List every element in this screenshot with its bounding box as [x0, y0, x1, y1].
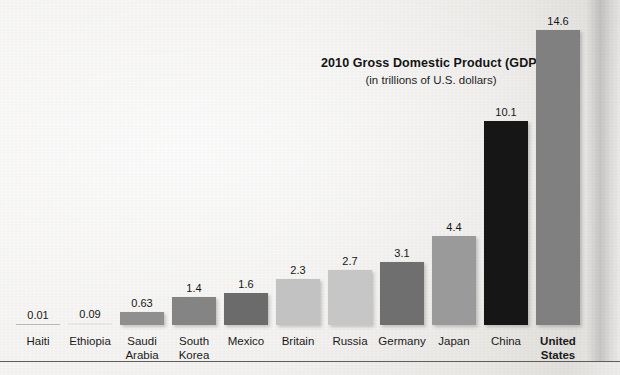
bar-category-label: Mexico: [228, 335, 264, 349]
bar-group[interactable]: 4.4Japan: [432, 236, 476, 325]
bar-value-label: 4.4: [446, 221, 461, 233]
bar-rect[interactable]: [276, 279, 320, 325]
bar-group[interactable]: 3.1Germany: [380, 262, 424, 325]
bar-group[interactable]: 0.09Ethiopia: [68, 323, 112, 325]
bar-group[interactable]: 1.4South Korea: [172, 297, 216, 325]
bar-rect[interactable]: [380, 262, 424, 325]
bar-rect[interactable]: [16, 324, 60, 325]
bar-rect[interactable]: [432, 236, 476, 325]
bar-group[interactable]: 1.6Mexico: [224, 293, 268, 325]
bar-chart-plot-area: 0.01Haiti0.09Ethiopia0.63Saudi Arabia1.4…: [0, 0, 620, 375]
bottom-rule: [0, 361, 620, 362]
bar-value-label: 0.09: [79, 308, 100, 320]
bar-category-label: China: [491, 335, 521, 349]
bar-rect[interactable]: [328, 270, 372, 325]
bar-value-label: 0.01: [27, 309, 48, 321]
bar-category-label: Saudi Arabia: [125, 335, 158, 362]
bar-category-label: Haiti: [26, 335, 49, 349]
bar-group[interactable]: 2.7Russia: [328, 270, 372, 325]
bar-category-label: Japan: [438, 335, 469, 349]
bar-rect[interactable]: [484, 121, 528, 325]
bar-value-label: 2.7: [342, 255, 357, 267]
gdp-chart-page: 2010 Gross Domestic Product (GDP) (in tr…: [0, 0, 620, 375]
bar-value-label: 14.6: [547, 15, 568, 27]
bar-rect[interactable]: [68, 323, 112, 325]
bar-category-label: United States: [540, 335, 576, 362]
bar-rect[interactable]: [172, 297, 216, 325]
bar-rect[interactable]: [120, 312, 164, 325]
bar-group[interactable]: 0.01Haiti: [16, 324, 60, 325]
bar-group[interactable]: 14.6United States: [536, 30, 580, 325]
bar-category-label: Ethiopia: [69, 335, 111, 349]
bar-category-label: Germany: [378, 335, 425, 349]
bar-value-label: 2.3: [290, 264, 305, 276]
bar-group[interactable]: 0.63Saudi Arabia: [120, 312, 164, 325]
bar-category-label: Britain: [282, 335, 315, 349]
bar-rect[interactable]: [536, 30, 580, 325]
bar-group[interactable]: 2.3Britain: [276, 279, 320, 325]
bar-value-label: 1.6: [238, 278, 253, 290]
bar-value-label: 10.1: [495, 106, 516, 118]
bar-value-label: 0.63: [131, 297, 152, 309]
bar-group[interactable]: 10.1China: [484, 121, 528, 325]
bar-category-label: South Korea: [179, 335, 210, 362]
bar-value-label: 3.1: [394, 247, 409, 259]
bar-value-label: 1.4: [186, 282, 201, 294]
bar-rect[interactable]: [224, 293, 268, 325]
bar-category-label: Russia: [332, 335, 367, 349]
